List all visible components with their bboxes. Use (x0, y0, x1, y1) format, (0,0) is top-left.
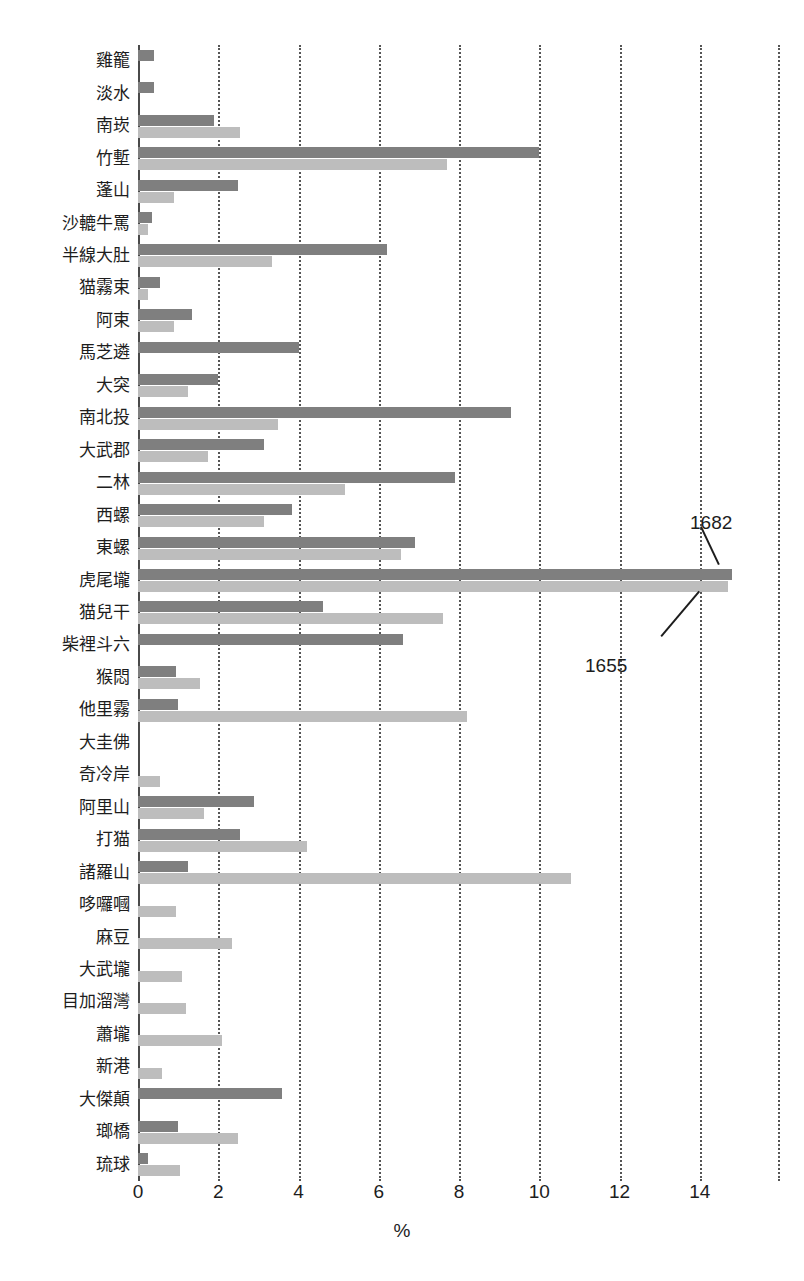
bar-1655 (138, 1003, 186, 1014)
bar-1655 (138, 776, 160, 787)
bar-row (138, 337, 780, 369)
category-label: 猫兒干 (5, 604, 130, 621)
bar-1655 (138, 549, 401, 560)
bar-row (138, 889, 780, 921)
bar-1682 (138, 1153, 148, 1164)
bar-1655 (138, 224, 148, 235)
bar-1655 (138, 906, 176, 917)
bar-1655 (138, 127, 240, 138)
bar-1682 (138, 277, 160, 288)
x-tick-label: 14 (689, 1181, 710, 1203)
category-label: 二林 (5, 474, 130, 491)
bar-1682 (138, 115, 214, 126)
bar-row (138, 272, 780, 304)
bar-1682 (138, 1088, 282, 1099)
category-label: 猴悶 (5, 669, 130, 686)
bar-row (138, 662, 780, 694)
category-label: 南崁 (5, 117, 130, 134)
bar-1655 (138, 808, 204, 819)
bar-1655 (138, 1133, 238, 1144)
x-tick-label: 4 (293, 1181, 304, 1203)
category-label: 奇冷岸 (5, 766, 130, 783)
annotation-label-1655: 1655 (585, 655, 627, 677)
x-axis-ticks: 02468101214 (138, 1181, 780, 1211)
bar-1655 (138, 873, 571, 884)
category-label: 虎尾壠 (5, 572, 130, 589)
bar-1655 (138, 159, 447, 170)
bar-row (138, 954, 780, 986)
bar-1682 (138, 244, 387, 255)
category-label: 蕭壠 (5, 1026, 130, 1043)
bar-row (138, 597, 780, 629)
bar-row (138, 532, 780, 564)
bar-1682 (138, 50, 154, 61)
bar-1655 (138, 516, 264, 527)
category-label: 諸羅山 (5, 864, 130, 881)
bar-row (138, 240, 780, 272)
category-label: 阿里山 (5, 799, 130, 816)
category-label: 淡水 (5, 85, 130, 102)
category-label: 打猫 (5, 831, 130, 848)
bar-1655 (138, 289, 148, 300)
bar-1682 (138, 537, 415, 548)
category-label: 瑯橋 (5, 1123, 130, 1140)
bar-1682 (138, 309, 192, 320)
category-label: 琉球 (5, 1156, 130, 1173)
bar-row (138, 77, 780, 109)
bar-1682 (138, 569, 732, 580)
category-label: 他里霧 (5, 701, 130, 718)
bar-row (138, 986, 780, 1018)
bar-row (138, 402, 780, 434)
category-label: 竹塹 (5, 150, 130, 167)
bar-1655 (138, 419, 278, 430)
bar-row (138, 370, 780, 402)
bar-row (138, 792, 780, 824)
bar-1682 (138, 861, 188, 872)
x-tick-label: 0 (133, 1181, 144, 1203)
category-label: 新港 (5, 1058, 130, 1075)
category-label: 沙轆牛罵 (5, 215, 130, 232)
bar-row (138, 856, 780, 888)
category-label: 目加溜灣 (5, 993, 130, 1010)
category-label: 柴裡斗六 (5, 636, 130, 653)
x-tick-label: 6 (373, 1181, 384, 1203)
bar-row (138, 305, 780, 337)
category-label: 大武郡 (5, 442, 130, 459)
bar-1655 (138, 1068, 162, 1079)
x-tick-label: 8 (454, 1181, 465, 1203)
bar-1655 (138, 256, 272, 267)
bar-1682 (138, 666, 176, 677)
category-label: 東螺 (5, 539, 130, 556)
bar-1655 (138, 841, 307, 852)
bar-1655 (138, 938, 232, 949)
bar-1682 (138, 82, 154, 93)
bar-row (138, 110, 780, 142)
bar-1682 (138, 699, 178, 710)
category-label: 猫霧束 (5, 279, 130, 296)
category-label: 大突 (5, 377, 130, 394)
bar-1655 (138, 678, 200, 689)
x-tick-label: 2 (213, 1181, 224, 1203)
bar-1682 (138, 796, 254, 807)
bar-1682 (138, 472, 455, 483)
category-label: 西螺 (5, 507, 130, 524)
bar-row (138, 499, 780, 531)
bar-row (138, 142, 780, 174)
category-label: 半線大肚 (5, 247, 130, 264)
bar-row (138, 727, 780, 759)
bar-chart: 雞籠淡水南崁竹塹蓬山沙轆牛罵半線大肚猫霧束阿束馬芝遴大突南北投大武郡二林西螺東螺… (0, 0, 804, 1281)
plot-area (138, 45, 780, 1181)
bar-rows (138, 45, 780, 1181)
x-tick-label: 10 (529, 1181, 550, 1203)
x-tick-label: 12 (609, 1181, 630, 1203)
category-label: 大傑顛 (5, 1091, 130, 1108)
bar-row (138, 694, 780, 726)
annotation-label-1682: 1682 (690, 512, 732, 534)
bar-1655 (138, 321, 174, 332)
category-label: 南北投 (5, 409, 130, 426)
bar-row (138, 824, 780, 856)
bar-1655 (138, 613, 443, 624)
category-label: 大武壠 (5, 961, 130, 978)
category-label: 馬芝遴 (5, 344, 130, 361)
bar-row (138, 1084, 780, 1116)
